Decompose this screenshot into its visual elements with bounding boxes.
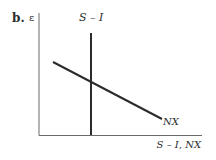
y-axis-label: ε	[29, 13, 34, 23]
nx-curve-label: NX	[163, 117, 179, 127]
nx-curve	[53, 62, 162, 119]
diagram-canvas	[0, 0, 216, 160]
si-curve-label: S – I	[79, 12, 103, 23]
panel-label: b.	[12, 12, 25, 24]
sm-i-nx-diagram: b. ε S – I NX S – I, NX	[0, 0, 216, 160]
x-axis-label: S – I, NX	[157, 140, 201, 150]
